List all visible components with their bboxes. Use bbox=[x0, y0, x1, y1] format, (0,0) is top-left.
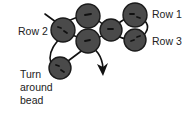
beadwork-diagram: Row 2 Row 1 Row 3 Turn around bead bbox=[0, 0, 194, 114]
label-turn-line3: bead bbox=[20, 94, 44, 106]
label-row2: Row 2 bbox=[18, 25, 48, 37]
label-turn-line1: Turn bbox=[20, 68, 41, 80]
bead-row2-middle-right bbox=[100, 19, 122, 41]
label-row1: Row 1 bbox=[152, 8, 182, 20]
bead-row1-top-middle bbox=[76, 4, 100, 28]
bead-row3-lower-middle bbox=[76, 29, 100, 53]
label-turn-line2: around bbox=[20, 81, 53, 93]
bead-row3-lower-right bbox=[124, 29, 146, 51]
bead-row1-top-right bbox=[123, 3, 147, 27]
bead-turn-around bbox=[49, 57, 71, 79]
bead-row2-left bbox=[51, 18, 75, 42]
label-row3: Row 3 bbox=[152, 35, 182, 47]
